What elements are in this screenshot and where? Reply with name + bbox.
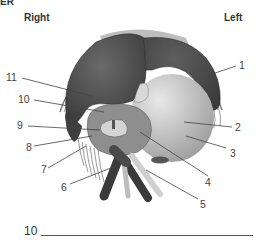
label-9: 9	[17, 120, 23, 131]
label-7: 7	[41, 164, 47, 175]
label-5: 5	[200, 199, 206, 210]
leader-7	[48, 146, 86, 168]
vessels	[104, 150, 169, 198]
label-3: 3	[230, 148, 236, 159]
label-8: 8	[26, 142, 32, 153]
cystic-duct-opening	[151, 157, 169, 164]
answer-number: 10	[24, 226, 37, 237]
label-6: 6	[61, 182, 67, 193]
label-2: 2	[235, 122, 241, 133]
label-4: 4	[205, 177, 211, 188]
answer-blank-line[interactable]	[41, 235, 253, 236]
inferior-vena-cava	[104, 160, 118, 196]
label-10: 10	[18, 94, 30, 105]
label-11: 11	[6, 72, 17, 83]
liver-illustration	[0, 0, 256, 240]
label-1: 1	[239, 60, 245, 71]
leader-8	[34, 136, 92, 146]
bile-duct-stub	[112, 120, 115, 129]
